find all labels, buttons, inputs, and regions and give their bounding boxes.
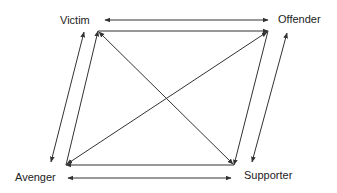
diagonal-avenger-offender — [67, 32, 267, 164]
arrow-offender-supporter — [252, 33, 287, 162]
edge-offender-supporter — [234, 31, 268, 165]
node-offender: Offender — [278, 13, 321, 25]
diagram-canvas — [0, 0, 337, 193]
arrow-victim-avenger — [51, 32, 84, 162]
node-supporter: Supporter — [244, 169, 292, 181]
node-avenger: Avenger — [15, 171, 56, 183]
diagonal-victim-supporter — [99, 32, 233, 164]
node-victim: Victim — [60, 14, 90, 26]
edge-avenger-victim — [66, 31, 98, 165]
